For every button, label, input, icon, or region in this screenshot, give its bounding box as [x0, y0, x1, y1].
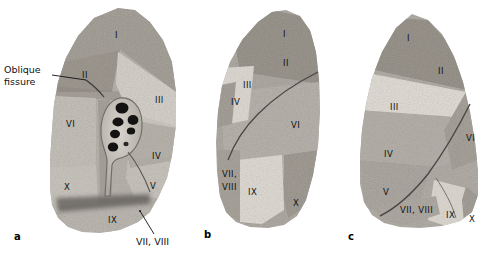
panel-letter-a: a — [14, 231, 21, 242]
panel-letter-b: b — [204, 229, 211, 240]
callout-oblique-fissure: Oblique fissure — [4, 64, 41, 87]
callout-segments-vii-viii: VII, VIII — [136, 236, 169, 248]
lung-segments-figure — [0, 0, 492, 255]
panel-letter-c: c — [348, 231, 354, 242]
